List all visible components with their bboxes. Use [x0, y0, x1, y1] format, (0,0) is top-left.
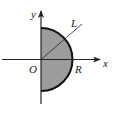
radius-label: R — [74, 63, 82, 75]
half-disc-diagram: y L O R x — [0, 0, 117, 114]
line-L-label: L — [70, 17, 77, 29]
y-axis-label: y — [30, 8, 36, 20]
origin-label: O — [29, 63, 37, 75]
x-axis-label: x — [102, 57, 108, 69]
